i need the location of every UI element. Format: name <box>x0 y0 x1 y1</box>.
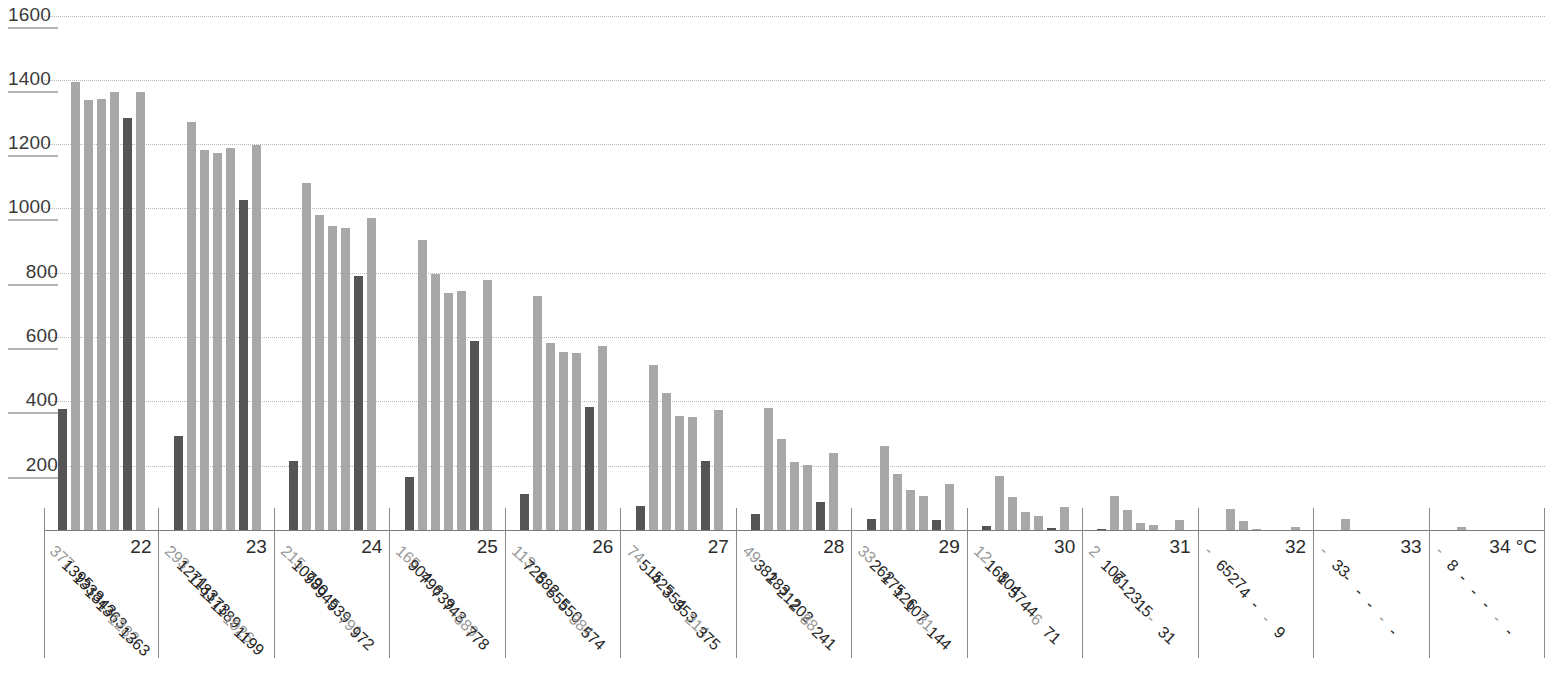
bar[interactable] <box>174 436 183 530</box>
value-label: 945 <box>311 583 343 614</box>
bar[interactable] <box>405 477 414 530</box>
value-label: 57 <box>1004 583 1029 608</box>
bar[interactable] <box>1136 523 1145 530</box>
bar[interactable] <box>764 408 773 530</box>
bar[interactable] <box>790 462 799 530</box>
bar[interactable] <box>302 183 311 530</box>
bar[interactable] <box>71 82 80 530</box>
bar[interactable] <box>1291 527 1300 530</box>
bar[interactable] <box>636 506 645 530</box>
bar[interactable] <box>546 343 555 530</box>
bar[interactable] <box>110 92 119 530</box>
bar[interactable] <box>893 474 902 530</box>
bar[interactable] <box>341 228 350 530</box>
bar[interactable] <box>1239 521 1248 530</box>
bar[interactable] <box>906 490 915 530</box>
bar[interactable] <box>1341 519 1350 530</box>
bar[interactable] <box>598 346 607 530</box>
bar[interactable] <box>995 476 1004 530</box>
bar[interactable] <box>945 484 954 530</box>
bar[interactable] <box>1252 529 1261 530</box>
bar[interactable] <box>751 514 760 530</box>
bar[interactable] <box>97 99 106 530</box>
bar[interactable] <box>816 502 825 530</box>
bar[interactable] <box>58 409 67 530</box>
bar[interactable] <box>252 145 261 530</box>
value-label: - <box>1201 542 1217 559</box>
bar[interactable] <box>688 417 697 530</box>
bar[interactable] <box>572 353 581 530</box>
value-label: - <box>1374 610 1390 627</box>
bar[interactable] <box>1047 528 1056 530</box>
value-label: 1173 <box>196 583 234 619</box>
bar[interactable] <box>880 446 889 530</box>
bar[interactable] <box>1226 509 1235 530</box>
x-axis-group-label: 29 <box>939 536 960 558</box>
bar[interactable] <box>867 519 876 530</box>
bar[interactable] <box>982 526 991 530</box>
bar[interactable] <box>533 296 542 530</box>
value-label: 1363 <box>115 623 153 660</box>
bar[interactable] <box>675 416 684 530</box>
bar[interactable] <box>701 461 710 530</box>
bar[interactable] <box>1021 512 1030 530</box>
bar[interactable] <box>457 291 466 530</box>
value-label: 1026 <box>219 610 257 647</box>
bar[interactable] <box>418 240 427 530</box>
value-label: 574 <box>577 623 609 654</box>
bar[interactable] <box>649 365 658 530</box>
bar[interactable] <box>1175 520 1184 530</box>
bar[interactable] <box>1034 516 1043 530</box>
bar[interactable] <box>239 200 248 530</box>
value-label: 144 <box>923 623 955 654</box>
bar-group: 32-65274--9 <box>1199 0 1314 679</box>
bar[interactable] <box>932 520 941 530</box>
bar-group: 284938128321220288241 <box>737 0 852 679</box>
bar[interactable] <box>483 280 492 530</box>
bar[interactable] <box>1123 510 1132 530</box>
bar[interactable] <box>559 352 568 530</box>
bar[interactable] <box>662 393 671 530</box>
bar-group: 2774515425354353214375 <box>621 0 736 679</box>
bar[interactable] <box>1060 507 1069 530</box>
bar[interactable] <box>585 407 594 530</box>
bar[interactable] <box>803 465 812 530</box>
bar[interactable] <box>367 218 376 530</box>
bar-group: 23293127111831173118910261199 <box>159 0 274 679</box>
bar[interactable] <box>84 100 93 530</box>
bar[interactable] <box>354 276 363 530</box>
bar[interactable] <box>315 215 324 530</box>
x-axis-group-label: 33 <box>1400 536 1421 558</box>
bar[interactable] <box>520 494 529 530</box>
bar[interactable] <box>919 496 928 530</box>
bar[interactable] <box>470 341 479 530</box>
bar[interactable] <box>123 118 132 530</box>
bar[interactable] <box>1457 527 1466 530</box>
bar[interactable] <box>1097 529 1106 530</box>
bar[interactable] <box>444 293 453 530</box>
bar[interactable] <box>200 150 209 530</box>
value-label: 61 <box>1108 569 1133 594</box>
bar[interactable] <box>1008 497 1017 530</box>
bar[interactable] <box>289 461 298 530</box>
bar[interactable] <box>829 453 838 530</box>
bar[interactable] <box>187 122 196 530</box>
bar[interactable] <box>714 410 723 530</box>
bar-group: 25165904796739743589778 <box>390 0 505 679</box>
value-label: 212 <box>773 583 805 614</box>
bar[interactable] <box>1149 525 1158 530</box>
value-label: 2 <box>1085 542 1104 561</box>
bar[interactable] <box>431 274 440 530</box>
bar[interactable] <box>136 92 145 530</box>
value-label: 65 <box>1212 556 1237 581</box>
bar[interactable] <box>777 439 786 530</box>
value-label: 8 <box>1443 556 1462 575</box>
bar[interactable] <box>213 153 222 530</box>
bar[interactable] <box>1110 496 1119 530</box>
bar[interactable] <box>226 148 235 530</box>
value-label: 791 <box>334 610 366 641</box>
bar[interactable] <box>328 226 337 530</box>
bar-group: 22377139513381343136312821363 <box>44 0 159 679</box>
value-label: 1282 <box>103 610 141 647</box>
bar-set <box>1083 0 1198 530</box>
